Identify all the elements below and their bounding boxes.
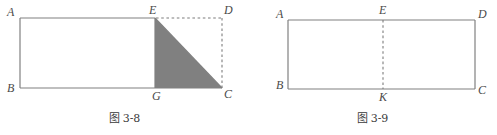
vertex-label-D: D [478, 8, 487, 20]
figure-3-9-caption: 图3-9 [248, 112, 497, 125]
vertex-label-A: A [276, 8, 283, 20]
vertex-label-E: E [149, 4, 156, 16]
vertex-label-A: A [7, 6, 14, 18]
figure-3-8-caption: 图3-8 [0, 112, 249, 125]
figure-3-8-diagram [0, 0, 249, 105]
geometry-figures-page: A E D B G C 图3-8 A E D B K C 图3-9 [0, 0, 497, 135]
vertex-label-C: C [224, 88, 232, 100]
figure-3-8-caption-number: 3-8 [123, 112, 141, 125]
figure-3-8: A E D B G C 图3-8 [0, 0, 249, 135]
vertex-label-B: B [276, 79, 283, 91]
vertex-label-D: D [224, 4, 233, 16]
figure-3-9-diagram [248, 0, 497, 105]
vertex-label-E: E [379, 4, 386, 16]
vertex-label-K: K [379, 91, 387, 103]
figure-3-9: A E D B K C 图3-9 [248, 0, 497, 135]
figure-3-9-caption-cjk: 图 [357, 112, 368, 125]
figure-3-9-caption-number: 3-9 [371, 112, 389, 125]
figure-3-8-caption-cjk: 图 [109, 112, 120, 125]
vertex-label-B: B [7, 82, 14, 94]
vertex-label-G: G [152, 90, 161, 102]
vertex-label-C: C [478, 84, 486, 96]
